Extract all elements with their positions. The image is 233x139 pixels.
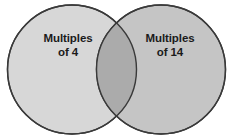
venn-diagram-svg xyxy=(0,0,233,139)
venn-label-left-line1: Multiples xyxy=(20,31,116,45)
venn-label-left-line2: of 4 xyxy=(20,45,116,59)
venn-diagram: Multiples of 4 Multiples of 14 xyxy=(0,0,233,139)
venn-label-right: Multiples of 14 xyxy=(122,31,218,59)
venn-label-left: Multiples of 4 xyxy=(20,31,116,59)
venn-label-right-line2: of 14 xyxy=(122,45,218,59)
venn-label-right-line1: Multiples xyxy=(122,31,218,45)
